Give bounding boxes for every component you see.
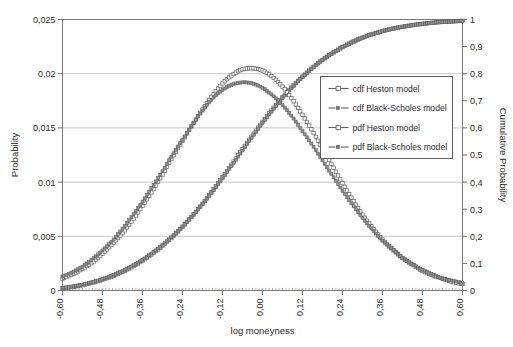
- series-marker: [263, 119, 266, 122]
- series-marker: [461, 281, 464, 284]
- series-marker: [174, 148, 177, 151]
- series-marker: [352, 205, 355, 208]
- series-marker: [301, 130, 304, 133]
- legend-marker-filled: [336, 106, 339, 109]
- series-marker: [170, 155, 173, 158]
- series-marker: [254, 131, 257, 134]
- x-tick-label: -0,36: [135, 299, 145, 320]
- series-marker: [290, 114, 293, 117]
- series-marker: [217, 183, 220, 186]
- legend-marker-filled: [336, 145, 339, 148]
- y-left-tick-label: 0: [50, 286, 55, 296]
- series-marker: [179, 142, 182, 145]
- series-marker: [143, 197, 146, 200]
- series-marker: [292, 100, 295, 103]
- series-marker: [299, 126, 302, 129]
- series-marker: [303, 133, 306, 136]
- series-marker: [345, 196, 348, 199]
- series-marker: [341, 189, 344, 192]
- series-marker: [150, 187, 153, 190]
- series-marker: [334, 170, 337, 173]
- series-marker: [330, 162, 333, 165]
- series-marker: [316, 139, 319, 142]
- series-marker: [194, 118, 197, 121]
- series-marker: [307, 124, 310, 127]
- legend-label: cdf Heston model: [353, 84, 420, 94]
- series-marker: [297, 123, 300, 126]
- chart-legend[interactable]: cdf Heston modelcdf Black-Scholes modelp…: [321, 77, 453, 159]
- x-tick-label: 0,12: [295, 299, 305, 317]
- series-marker: [145, 193, 148, 196]
- series-marker: [294, 103, 297, 106]
- series-marker: [232, 161, 235, 164]
- series-marker: [321, 159, 324, 162]
- series-marker: [190, 125, 193, 128]
- series-marker: [237, 155, 240, 158]
- series-marker: [336, 174, 339, 177]
- series-marker: [165, 163, 168, 166]
- series-marker: [343, 193, 346, 196]
- series-marker: [181, 138, 184, 141]
- series-marker: [163, 166, 166, 169]
- y-axis-left-ticks: 00,0050,010,0150,020,025: [33, 15, 63, 296]
- series-marker: [257, 127, 260, 130]
- series-marker: [214, 186, 217, 189]
- series-marker: [354, 208, 357, 211]
- y-right-tick-label: 0,7: [470, 96, 483, 106]
- series-marker: [245, 143, 248, 146]
- legend-marker-open: [336, 125, 340, 129]
- x-tick-label: 0,00: [255, 299, 265, 317]
- x-axis-ticks: -0,60-0,48-0,36-0,24-0,120,000,120,240,3…: [55, 291, 465, 320]
- series-marker: [130, 216, 133, 219]
- series-marker: [308, 139, 311, 142]
- series-marker: [337, 183, 340, 186]
- x-tick-label: -0,24: [175, 299, 185, 320]
- probability-distribution-chart: -0,60-0,48-0,36-0,24-0,120,000,120,240,3…: [0, 0, 513, 347]
- series-marker: [325, 166, 328, 169]
- series-marker: [357, 211, 360, 214]
- series-marker: [157, 177, 160, 180]
- series-marker: [223, 174, 226, 177]
- series-marker: [148, 190, 151, 193]
- series-marker: [330, 172, 333, 175]
- series-marker: [310, 142, 313, 145]
- y-right-tick-label: 0: [470, 286, 475, 296]
- series-marker: [188, 128, 191, 131]
- series-marker: [294, 120, 297, 123]
- y-left-tick-label: 0,025: [33, 15, 56, 25]
- series-marker: [461, 19, 464, 22]
- y-right-tick-label: 0,5: [470, 150, 483, 160]
- series-marker: [334, 179, 337, 182]
- series-marker: [312, 145, 315, 148]
- series-marker: [317, 152, 320, 155]
- series-marker: [252, 134, 255, 137]
- series-marker: [301, 113, 304, 116]
- series-marker: [310, 128, 313, 131]
- y-right-tick-label: 0,2: [470, 232, 483, 242]
- series-marker: [139, 203, 142, 206]
- y-right-tick-label: 1: [470, 15, 475, 25]
- series-marker: [221, 177, 224, 180]
- y-left-tick-label: 0,01: [38, 178, 56, 188]
- series-marker: [230, 165, 233, 168]
- series-marker: [197, 115, 200, 118]
- series-marker: [328, 169, 331, 172]
- y-right-tick-label: 0,4: [470, 178, 483, 188]
- x-tick-label: 0,24: [335, 299, 345, 317]
- series-marker: [168, 159, 171, 162]
- series-marker: [185, 132, 188, 135]
- series-marker: [305, 120, 308, 123]
- series-marker: [345, 189, 348, 192]
- series-marker: [343, 185, 346, 188]
- series-marker: [219, 180, 222, 183]
- series-marker: [159, 173, 162, 176]
- legend-marker-open: [336, 86, 340, 90]
- y-right-tick-label: 0,1: [470, 259, 483, 269]
- x-tick-label: 0,60: [455, 299, 465, 317]
- series-marker: [259, 124, 262, 127]
- series-marker: [199, 112, 202, 115]
- series-marker: [339, 186, 342, 189]
- series-marker: [177, 145, 180, 148]
- y-left-tick-label: 0,005: [33, 232, 56, 242]
- series-marker: [239, 152, 242, 155]
